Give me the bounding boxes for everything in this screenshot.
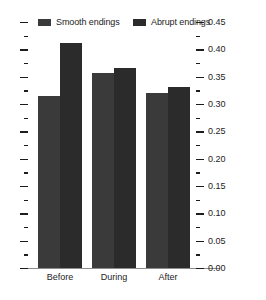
y-tick-major (20, 49, 28, 50)
bar-after-abrupt-endings (168, 87, 190, 268)
y-tick-minor (24, 63, 28, 64)
y-tick-minor (24, 145, 28, 146)
y-tick-minor (196, 254, 200, 255)
bar-during-smooth-endings (92, 73, 114, 268)
bar-after-smooth-endings (146, 93, 168, 268)
y-tick-minor (196, 145, 200, 146)
x-axis-tick-labels: BeforeDuringAfter (33, 272, 195, 286)
y-axis-ticks-left (14, 22, 28, 268)
y-tick-major (196, 104, 204, 105)
y-tick-major (20, 22, 28, 23)
y-tick-minor (24, 172, 28, 173)
y-tick-minor (196, 172, 200, 173)
bar-group-before (38, 22, 82, 268)
y-axis-tick-labels: 0.000.050.100.150.200.250.300.350.400.45 (208, 22, 248, 268)
y-tick-minor (196, 118, 200, 119)
y-tick-minor (196, 227, 200, 228)
y-tick-major (196, 241, 204, 242)
x-tick-label-before: Before (47, 272, 74, 283)
y-tick-major (196, 213, 204, 214)
y-tick-minor (196, 36, 200, 37)
y-tick-major (20, 131, 28, 132)
y-tick-label-0.30: 0.30 (208, 100, 226, 109)
y-tick-label-0.25: 0.25 (208, 127, 226, 136)
y-tick-major (196, 268, 204, 269)
y-tick-label-0.00: 0.00 (208, 264, 226, 273)
y-tick-major (196, 159, 204, 160)
y-tick-minor (24, 200, 28, 201)
y-tick-label-0.20: 0.20 (208, 154, 226, 163)
x-tick-label-after: After (158, 272, 177, 283)
plot-area (33, 22, 195, 268)
y-tick-label-0.45: 0.45 (208, 18, 226, 27)
y-tick-major (196, 131, 204, 132)
y-tick-label-0.35: 0.35 (208, 72, 226, 81)
y-tick-label-0.15: 0.15 (208, 182, 226, 191)
y-tick-label-0.05: 0.05 (208, 236, 226, 245)
y-tick-minor (24, 118, 28, 119)
y-tick-label-0.10: 0.10 (208, 209, 226, 218)
y-tick-major (20, 268, 28, 269)
y-tick-major (196, 22, 204, 23)
y-tick-major (20, 159, 28, 160)
y-tick-minor (24, 90, 28, 91)
y-tick-major (196, 186, 204, 187)
bar-chart: Smooth endings Abrupt endings 0.000.050.… (0, 0, 266, 300)
y-tick-major (20, 77, 28, 78)
x-axis-line (20, 268, 220, 269)
y-tick-minor (24, 254, 28, 255)
y-tick-minor (196, 63, 200, 64)
y-tick-minor (196, 200, 200, 201)
y-tick-minor (24, 227, 28, 228)
y-tick-major (196, 49, 204, 50)
y-tick-minor (196, 90, 200, 91)
bar-during-abrupt-endings (114, 68, 136, 268)
bar-before-smooth-endings (38, 96, 60, 268)
y-tick-major (20, 213, 28, 214)
y-tick-major (20, 104, 28, 105)
y-tick-major (20, 241, 28, 242)
y-tick-minor (24, 36, 28, 37)
y-tick-label-0.40: 0.40 (208, 45, 226, 54)
bar-before-abrupt-endings (60, 43, 82, 268)
y-tick-major (196, 77, 204, 78)
y-tick-major (20, 186, 28, 187)
x-tick-label-during: During (101, 272, 128, 283)
bar-group-after (146, 22, 190, 268)
bar-group-during (92, 22, 136, 268)
